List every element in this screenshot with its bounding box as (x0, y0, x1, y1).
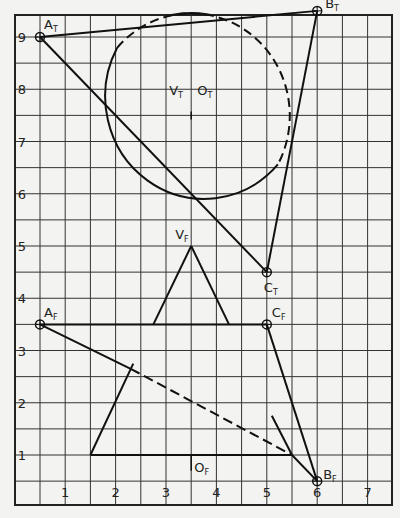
x-axis-label: 4 (212, 485, 220, 500)
label-o-front: OF (194, 460, 209, 477)
x-axis-label: 7 (363, 485, 371, 500)
cone-right (191, 246, 229, 324)
label-v-front: VF (175, 227, 189, 244)
x-axis-label: 6 (313, 485, 321, 500)
x-axis-label: 2 (111, 485, 119, 500)
y-axis-label: 6 (18, 187, 26, 202)
y-axis-label: 3 (18, 344, 26, 359)
y-axis-label: 2 (18, 396, 26, 411)
edge-af-bf-hidden (131, 369, 292, 455)
edge-af-bf-visible (40, 324, 131, 368)
label-b-top: BT (325, 0, 339, 13)
edge-at-ct (40, 37, 267, 272)
y-axis-label: 5 (18, 239, 26, 254)
y-axis-label: 4 (18, 291, 26, 306)
y-axis-label: 8 (18, 82, 26, 97)
diagram-canvas: 1234567123456789 ATBTCTVTOTAFCFBFVFOF (0, 0, 400, 518)
x-axis-label: 3 (162, 485, 170, 500)
label-v-top: VT (169, 83, 183, 100)
label-o-top: OT (197, 83, 212, 100)
base-left-edge (90, 364, 133, 455)
y-axis-label: 9 (18, 30, 26, 45)
cone-left (153, 246, 191, 324)
x-axis-label: 1 (61, 485, 69, 500)
x-axis-label: 5 (263, 485, 271, 500)
y-axis-label: 1 (18, 448, 26, 463)
y-axis-label: 7 (18, 135, 26, 150)
label-c-top: CT (264, 280, 278, 297)
label-a-front: AF (44, 305, 58, 322)
label-a-top: AT (44, 17, 58, 34)
axis-labels: 1234567123456789 (18, 30, 372, 500)
label-b-front: BF (323, 467, 337, 484)
label-c-front: CF (272, 305, 286, 322)
